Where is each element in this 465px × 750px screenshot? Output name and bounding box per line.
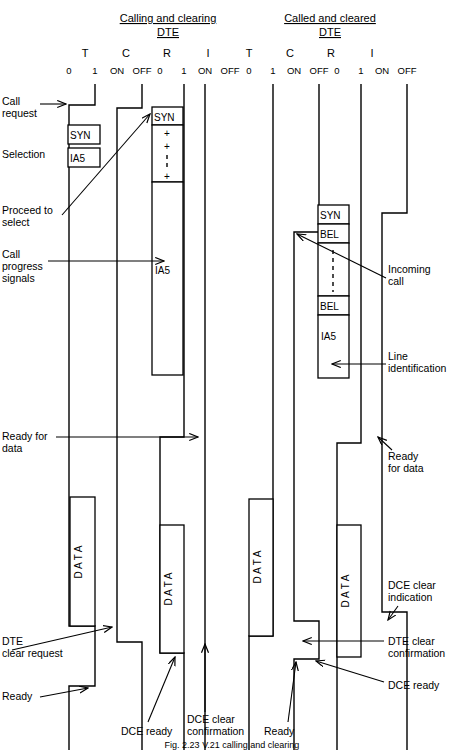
label-incoming-call-line2: call bbox=[388, 275, 404, 287]
leader-dce-ready-bottom bbox=[148, 657, 175, 722]
label-proceed-to-select-line2: select bbox=[2, 216, 30, 228]
label-ready-for-data: Ready for data bbox=[2, 430, 198, 454]
label-dce-clear-indication-line1: DCE clear bbox=[388, 579, 436, 591]
signal-name-t2: T bbox=[246, 47, 253, 59]
block-right-r-ia5-label: IA5 bbox=[321, 331, 336, 342]
block-right-r-bel-bottom-label: BEL bbox=[320, 301, 339, 312]
level-1-c: 1 bbox=[270, 65, 275, 76]
label-dce-ready-bottom: DCE ready bbox=[121, 657, 175, 737]
block-right-r-bel-top-label: BEL bbox=[320, 229, 339, 240]
label-call-progress-line3: signals bbox=[2, 272, 35, 284]
label-call-request-line1: Call bbox=[2, 95, 20, 107]
leader-ready-for-data-right bbox=[378, 437, 392, 450]
label-ready-for-data-line2: data bbox=[2, 442, 23, 454]
level-on-c: ON bbox=[287, 65, 301, 76]
block-left-r-ia5 bbox=[152, 182, 183, 375]
label-call-progress-line1: Call bbox=[2, 248, 20, 260]
level-1-d: 1 bbox=[358, 65, 363, 76]
label-dce-ready-right: DCE ready bbox=[316, 661, 440, 691]
label-dte-clear-request-line2: clear request bbox=[2, 647, 63, 659]
block-left-r-syn-label: SYN bbox=[154, 112, 175, 123]
level-off-c: OFF bbox=[310, 65, 329, 76]
leader-dce-ready-right bbox=[316, 661, 384, 682]
level-label-row: 0 1 ON OFF 0 1 ON OFF 0 1 ON OFF 0 1 ON … bbox=[66, 65, 416, 76]
label-line-identification-line1: Line bbox=[388, 350, 408, 362]
data-block-called-t-label: D A T A bbox=[252, 550, 263, 583]
header-group-1: Calling and clearing DTE bbox=[120, 12, 217, 38]
label-dce-ready-bottom-line1: DCE ready bbox=[121, 725, 173, 737]
plus-mark-2: + bbox=[164, 141, 170, 152]
level-0-c: 0 bbox=[246, 65, 251, 76]
signal-name-i2: I bbox=[370, 47, 373, 59]
leader-ready-bottom bbox=[288, 662, 296, 722]
signal-name-i1: I bbox=[206, 47, 209, 59]
trace-calling-c bbox=[117, 84, 142, 750]
signal-name-r1: R bbox=[163, 47, 171, 59]
block-left-c-ia5-label: IA5 bbox=[70, 153, 85, 164]
plus-mark-1: + bbox=[164, 128, 170, 139]
label-call-progress-line2: progress bbox=[2, 260, 43, 272]
label-dce-clear-conf-bottom-line2: confirmation bbox=[187, 725, 244, 737]
trace-calling-t bbox=[69, 84, 95, 750]
label-ready-for-data-right-line2: for data bbox=[388, 462, 424, 474]
level-off-a: OFF bbox=[133, 65, 152, 76]
label-selection: Selection bbox=[2, 148, 45, 160]
label-dce-clear-confirmation-bottom: DCE clear confirmation bbox=[187, 644, 244, 737]
figure-caption: Fig. 2.23 V.21 calling and clearing bbox=[165, 740, 300, 750]
label-call-request: Call request bbox=[2, 95, 66, 119]
calling-selection-blocks: SYN IA5 bbox=[68, 125, 100, 167]
signal-name-c2: C bbox=[286, 47, 294, 59]
label-dce-clear-indication: DCE clear indication bbox=[388, 579, 436, 620]
plus-mark-3: + bbox=[164, 171, 170, 182]
data-block-calling-r-label: D A T A bbox=[163, 572, 174, 605]
level-0-d: 0 bbox=[334, 65, 339, 76]
label-proceed-to-select-line1: Proceed to bbox=[2, 204, 53, 216]
level-on-d: ON bbox=[375, 65, 389, 76]
label-dce-clear-conf-bottom-line1: DCE clear bbox=[187, 713, 235, 725]
label-dte-clear-confirmation-line2: confirmation bbox=[388, 647, 445, 659]
group-1-title-line1: Calling and clearing bbox=[120, 12, 217, 24]
label-ready-bottom-line1: Ready bbox=[264, 725, 295, 737]
level-0-b: 0 bbox=[157, 65, 162, 76]
trace-called-t bbox=[249, 84, 273, 750]
signal-name-r2: R bbox=[327, 47, 335, 59]
leader-ready-left bbox=[40, 688, 88, 697]
signal-name-c1: C bbox=[122, 47, 130, 59]
label-dce-clear-indication-line2: indication bbox=[388, 591, 433, 603]
label-ready-left-line1: Ready bbox=[2, 690, 33, 702]
level-1-a: 1 bbox=[92, 65, 97, 76]
label-incoming-call-line1: Incoming bbox=[388, 263, 431, 275]
called-r-blocks: SYN BEL BEL IA5 bbox=[318, 205, 349, 378]
v21-timing-diagram: Calling and clearing DTE Called and clea… bbox=[0, 0, 465, 750]
data-block-calling-t-label: D A T A bbox=[73, 545, 84, 578]
level-on-b: ON bbox=[198, 65, 212, 76]
level-off-b: OFF bbox=[221, 65, 240, 76]
data-block-called-r-label: D A T A bbox=[340, 574, 351, 607]
trace-called-c bbox=[294, 84, 319, 750]
label-call-request-line2: request bbox=[2, 107, 37, 119]
group-2-title-line1: Called and cleared bbox=[284, 12, 376, 24]
label-dce-ready-right-line1: DCE ready bbox=[388, 679, 440, 691]
level-on-a: ON bbox=[110, 65, 124, 76]
calling-r-blocks: SYN + + + IA5 bbox=[152, 107, 183, 375]
label-ready-bottom: Ready bbox=[264, 662, 296, 737]
data-blocks: D A T A D A T A D A T A D A T A bbox=[70, 497, 361, 657]
block-right-r-ia5 bbox=[318, 315, 349, 378]
label-ready-for-data-line1: Ready for bbox=[2, 430, 48, 442]
block-left-c-syn-label: SYN bbox=[70, 130, 91, 141]
label-dte-clear-confirmation-line1: DTE clear bbox=[388, 635, 435, 647]
level-0-a: 0 bbox=[66, 65, 71, 76]
level-1-b: 1 bbox=[181, 65, 186, 76]
label-call-progress-signals: Call progress signals bbox=[2, 248, 164, 284]
label-selection-line1: Selection bbox=[2, 148, 45, 160]
group-2-title-line2: DTE bbox=[319, 26, 341, 38]
signal-name-row: T C R I T C R I bbox=[82, 47, 374, 59]
signal-name-t1: T bbox=[82, 47, 89, 59]
label-line-identification-line2: identification bbox=[388, 362, 447, 374]
label-dte-clear-request-line1: DTE bbox=[2, 635, 23, 647]
level-off-d: OFF bbox=[398, 65, 417, 76]
header-group-2: Called and cleared DTE bbox=[284, 12, 376, 38]
label-incoming-call: Incoming call bbox=[297, 234, 431, 287]
label-ready-for-data-right-line1: Ready bbox=[388, 450, 419, 462]
block-left-r-ia5-label: IA5 bbox=[155, 265, 170, 276]
